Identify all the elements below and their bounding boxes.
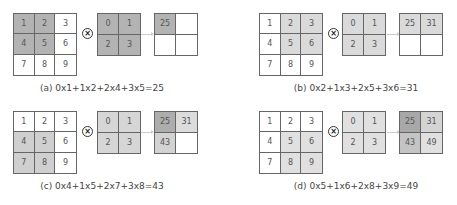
output-cell: 25 <box>155 14 176 35</box>
kernel-cell: 3 <box>119 35 140 56</box>
kernel-cell: 2 <box>343 35 364 56</box>
input-cell: 3 <box>55 14 76 34</box>
input-cell: 3 <box>55 112 76 132</box>
input-cell: 1 <box>260 112 281 132</box>
kernel-matrix: 0 1 2 3 <box>342 13 386 56</box>
input-cell: 7 <box>14 55 35 75</box>
kernel-cell: 2 <box>343 133 364 154</box>
kernel-cell: 0 <box>343 112 364 133</box>
input-cell: 7 <box>14 153 35 173</box>
kernel-matrix: 0 1 2 3 <box>97 111 141 154</box>
kernel-matrix: 0 1 2 3 <box>342 111 386 154</box>
caption: (b) 0x2+1x3+2x5+3x6=31 <box>242 83 457 93</box>
input-cell: 8 <box>35 55 56 75</box>
input-cell: 8 <box>281 153 302 173</box>
input-cell: 4 <box>260 132 281 152</box>
output-matrix: 25 31 43 <box>154 111 198 154</box>
input-cell: 9 <box>301 153 322 173</box>
caption: (d) 0x5+1x6+2x8+3x9=49 <box>242 181 457 191</box>
output-cell <box>155 35 176 56</box>
input-cell: 7 <box>260 153 281 173</box>
convolution-operator-icon: × <box>82 28 93 39</box>
caption: (c) 0x4+1x5+2x7+3x8=43 <box>0 181 216 191</box>
arrow-icon <box>141 132 151 133</box>
input-cell: 2 <box>281 14 302 34</box>
input-cell: 9 <box>55 55 76 75</box>
arrow-icon <box>387 132 397 133</box>
input-cell: 7 <box>260 55 281 75</box>
output-cell: 49 <box>421 133 442 154</box>
input-cell: 5 <box>35 132 56 152</box>
output-cell <box>176 35 197 56</box>
output-matrix: 25 <box>154 13 198 56</box>
kernel-cell: 3 <box>119 133 140 154</box>
input-cell: 6 <box>301 34 322 54</box>
convolution-operator-icon: × <box>82 126 93 137</box>
input-cell: 5 <box>281 132 302 152</box>
output-cell: 31 <box>421 112 442 133</box>
input-cell: 2 <box>35 112 56 132</box>
kernel-cell: 0 <box>98 112 119 133</box>
arrow-icon <box>141 34 151 35</box>
panel-b: 1 2 3 4 5 6 7 8 9 × 0 1 2 3 25 31 (b) 0x… <box>246 0 457 100</box>
input-cell: 5 <box>281 34 302 54</box>
input-matrix: 1 2 3 4 5 6 7 8 9 <box>259 13 323 76</box>
convolution-operator-icon: × <box>328 126 339 137</box>
input-matrix: 1 2 3 4 5 6 7 8 9 <box>13 13 77 76</box>
convolution-operator-icon: × <box>328 28 339 39</box>
kernel-matrix: 0 1 2 3 <box>97 13 141 56</box>
input-matrix: 1 2 3 4 5 6 7 8 9 <box>259 111 323 174</box>
output-cell: 25 <box>400 112 421 133</box>
output-matrix: 25 31 <box>399 13 443 56</box>
kernel-cell: 0 <box>343 14 364 35</box>
kernel-cell: 2 <box>98 133 119 154</box>
output-matrix: 25 31 43 49 <box>399 111 443 154</box>
output-cell <box>176 14 197 35</box>
input-cell: 1 <box>14 112 35 132</box>
input-cell: 6 <box>55 34 76 54</box>
input-cell: 1 <box>14 14 35 34</box>
output-cell: 31 <box>421 14 442 35</box>
input-cell: 3 <box>301 14 322 34</box>
panel-a: 1 2 3 4 5 6 7 8 9 × 0 1 2 3 25 (a) 0x1+1… <box>0 0 228 100</box>
input-cell: 8 <box>35 153 56 173</box>
arrow-icon <box>387 34 397 35</box>
output-cell <box>400 35 421 56</box>
input-cell: 6 <box>301 132 322 152</box>
input-matrix: 1 2 3 4 5 6 7 8 9 <box>13 111 77 174</box>
kernel-cell: 1 <box>119 112 140 133</box>
kernel-cell: 1 <box>119 14 140 35</box>
output-cell: 31 <box>176 112 197 133</box>
input-cell: 1 <box>260 14 281 34</box>
input-cell: 4 <box>14 34 35 54</box>
input-cell: 5 <box>35 34 56 54</box>
input-cell: 9 <box>55 153 76 173</box>
output-cell: 43 <box>155 133 176 154</box>
input-cell: 3 <box>301 112 322 132</box>
kernel-cell: 3 <box>364 35 385 56</box>
panel-d: 1 2 3 4 5 6 7 8 9 × 0 1 2 3 25 31 43 49 … <box>246 98 457 198</box>
input-cell: 8 <box>281 55 302 75</box>
panel-c: 1 2 3 4 5 6 7 8 9 × 0 1 2 3 25 31 43 (c)… <box>0 98 228 198</box>
output-cell: 25 <box>155 112 176 133</box>
kernel-cell: 3 <box>364 133 385 154</box>
input-cell: 6 <box>55 132 76 152</box>
input-cell: 9 <box>301 55 322 75</box>
input-cell: 4 <box>14 132 35 152</box>
output-cell <box>421 35 442 56</box>
output-cell: 43 <box>400 133 421 154</box>
kernel-cell: 1 <box>364 14 385 35</box>
kernel-cell: 2 <box>98 35 119 56</box>
output-cell: 25 <box>400 14 421 35</box>
input-cell: 2 <box>281 112 302 132</box>
input-cell: 2 <box>35 14 56 34</box>
input-cell: 4 <box>260 34 281 54</box>
kernel-cell: 0 <box>98 14 119 35</box>
caption: (a) 0x1+1x2+2x4+3x5=25 <box>0 83 216 93</box>
output-cell <box>176 133 197 154</box>
kernel-cell: 1 <box>364 112 385 133</box>
